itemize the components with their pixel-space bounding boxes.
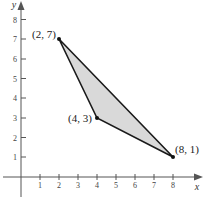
- point-label-2-7: (2, 7): [32, 28, 56, 41]
- y-tick-label: 4: [13, 94, 17, 103]
- y-axis-label: y: [11, 0, 17, 10]
- y-ticks: [21, 20, 26, 158]
- x-tick-label: 6: [133, 181, 137, 190]
- vertex-point: [95, 116, 99, 120]
- x-tick-label: 5: [114, 181, 118, 190]
- x-tick-label: 8: [171, 181, 175, 190]
- x-tick-label: 4: [95, 181, 99, 190]
- vertex-point: [171, 155, 175, 159]
- x-axis-arrow-icon: [194, 174, 203, 181]
- y-tick-label: 1: [13, 153, 17, 162]
- y-axis-arrow-icon: [18, 1, 25, 10]
- y-tick-label: 8: [13, 16, 17, 25]
- vertex-point: [57, 37, 61, 41]
- x-axis-label: x: [194, 181, 200, 192]
- point-label-8-1: (8, 1): [175, 143, 199, 156]
- y-tick-label: 3: [13, 114, 17, 123]
- y-tick-label: 5: [13, 75, 17, 84]
- point-label-4-3: (4, 3): [68, 112, 92, 125]
- coordinate-plane: 1 2 3 4 5 6 7 8 1 2 3 4 5 6 7 8 x y (2, …: [0, 0, 205, 204]
- y-tick-label: 7: [13, 35, 17, 44]
- triangle-region: [59, 39, 173, 157]
- x-tick-label: 1: [38, 181, 42, 190]
- y-tick-label: 2: [13, 134, 17, 143]
- x-tick-label: 3: [76, 181, 80, 190]
- x-tick-label: 7: [152, 181, 156, 190]
- x-tick-label: 2: [57, 181, 61, 190]
- y-tick-label: 6: [13, 55, 17, 64]
